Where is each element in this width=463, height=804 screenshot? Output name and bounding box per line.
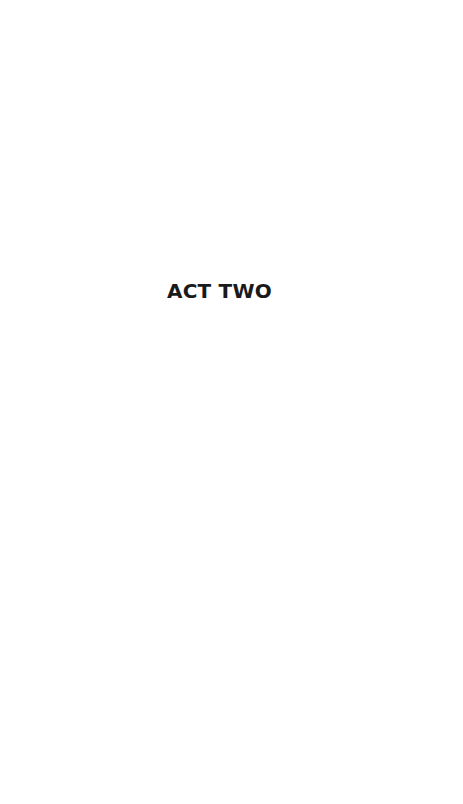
book-page: ACT TWO: [0, 0, 463, 804]
act-heading: ACT TWO: [167, 279, 272, 303]
